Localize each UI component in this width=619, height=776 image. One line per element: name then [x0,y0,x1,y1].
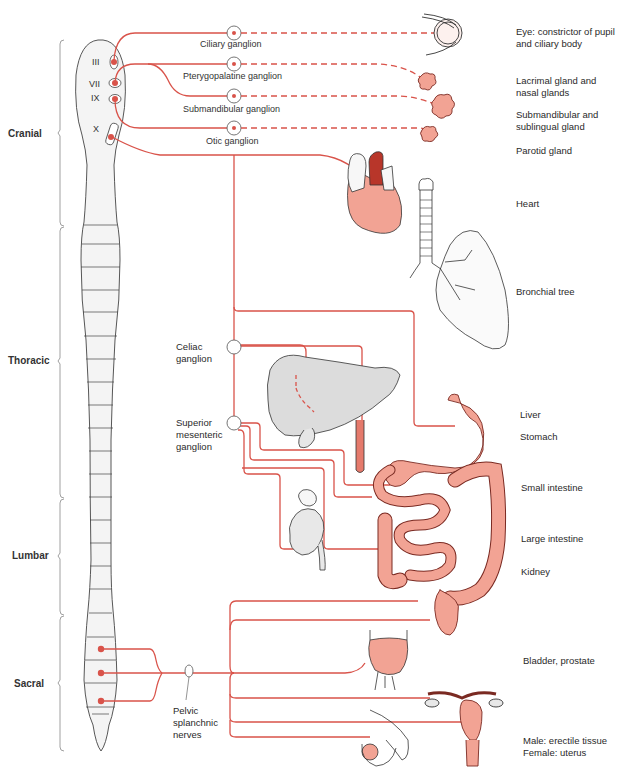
target-label-heart: Heart [516,198,539,210]
eye-illustration [422,14,462,55]
target-label-small-intestine: Small intestine [521,482,583,494]
lung-illustration [410,178,509,349]
ganglion-label-celiac: Celiac ganglion [176,341,212,365]
region-label-cranial: Cranial [8,128,42,139]
ganglion-label-pterygopalatine: Pterygopalatine ganglion [183,71,282,81]
target-label-lacrimal: Lacrimal gland and nasal glands [516,75,596,99]
uterus-illustration [425,693,503,766]
target-label-bladder-prostate: Bladder, prostate [523,655,595,667]
target-label-liver: Liver [520,409,541,421]
target-label-erectile-uterus: Male: erectile tissue Female: uterus [523,735,607,759]
cranial-nerve-ix: IX [91,93,100,103]
postganglionic-dashed [241,33,448,131]
heart-illustration [348,152,402,234]
ganglion-label-superior-mesenteric: Superior mesenteric ganglion [176,417,222,453]
target-label-large-intestine: Large intestine [521,533,583,545]
ganglion-label-otic: Otic ganglion [206,136,259,146]
bladder-illustration [369,630,408,690]
kidney-illustration [289,490,325,570]
label-pelvic-splanchnic-nerves: Pelvic splanchnic nerves [173,705,218,741]
target-label-stomach: Stomach [520,431,558,443]
cranial-nerve-x: X [93,124,99,134]
gland-illustrations [418,73,454,142]
target-label-eye: Eye: constrictor of pupil and ciliary bo… [516,26,615,50]
target-label-kidney: Kidney [521,566,550,578]
region-label-sacral: Sacral [14,678,44,689]
ganglion-label-submandibular: Submandibular ganglion [183,104,280,114]
region-label-thoracic: Thoracic [8,355,50,366]
liver-illustration [267,355,400,472]
target-label-parotid: Parotid gland [516,145,572,157]
ganglion-label-ciliary: Ciliary ganglion [200,39,262,49]
male-genital-illustration [362,710,409,766]
spinal-cord [76,40,126,751]
region-brackets [58,40,64,751]
target-label-submandibular-gland: Submandibular and sublingual gland [516,109,598,133]
region-label-lumbar: Lumbar [12,550,49,561]
target-label-bronchial-tree: Bronchial tree [516,286,575,298]
cranial-nerve-vii: VII [89,79,100,89]
cranial-nerve-iii: III [92,57,100,67]
